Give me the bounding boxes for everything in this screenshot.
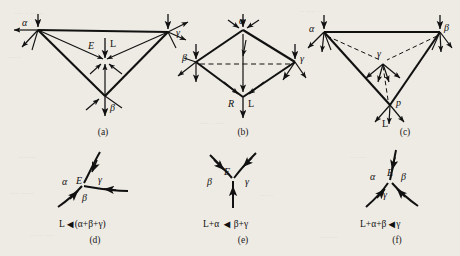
panel-d-label-alpha: α [62,177,67,187]
panel-e-formula-lhs: L+α [203,219,219,229]
panel-b-RL-arrow-in-left [224,82,238,94]
panel-f-formula-arrow: ◄ [386,218,396,230]
panel-a-spoke-from-gamma [107,32,168,59]
panel-a-edge-top [38,30,168,32]
panel-d-arrow-right-branch [104,189,116,190]
panel-c-label-L: L [382,119,388,129]
panel-a-label-L: L [110,39,116,49]
panel-d-arrow-downleft-branch [70,191,78,199]
panel-d-branch-downleft [58,186,82,207]
panel-e-label-E: E [224,167,230,177]
panel-c-label-p: p [396,98,401,108]
panel-c-beta-arrow-down2 [440,32,441,52]
panel-e-caption: (e) [228,235,258,245]
panel-e-formula-arrow: ◄ [222,218,232,230]
panel-d-formula-rhs: (α+β+γ) [75,219,106,229]
panel-f-formula-rhs: γ [396,219,400,229]
panel-d-label-beta: β [82,193,87,203]
panel-d-formula: L◄(α+β+γ) [59,218,106,230]
panel-e-arrow-upleft-branch [214,160,224,170]
panel-b-edge-gamma-RL [243,62,295,97]
panel-b-label-alpha: α [239,16,244,26]
panel-d-caption: (d) [80,235,110,245]
panel-d-label-E: E [76,176,82,186]
panel-b-caption: (b) [228,127,258,137]
panel-d-diagram [58,152,128,207]
panel-b-label-L: L [248,99,254,109]
panel-f-formula-lhs: L+α+β [360,219,386,229]
panel-c-edge-right [390,32,440,105]
panel-c-label-beta: β [444,23,449,33]
panel-b-edge-alpha-gamma [243,30,295,62]
panel-c-beta-arrow-downright [440,32,452,48]
panel-c-alpha-arrow-downleft [308,32,324,48]
panel-e-label-gamma: γ [245,177,249,187]
panel-d-formula-lhs: L [59,219,65,229]
panel-f-label-alpha: α [370,172,375,182]
panel-a-label-alpha: α [22,18,27,28]
panel-f-branch-downright [392,183,418,206]
panel-a-label-E: E [88,41,94,51]
panel-b-label-beta: β [182,53,187,63]
panel-f-arrow-downright-branch [397,189,405,197]
panel-c-dashed-alpha-gamma [327,36,380,60]
panel-a-diagram [14,14,188,116]
panel-f-label-gamma: γ [383,190,387,200]
panel-a-caption: (a) [88,127,118,137]
panel-f-label-beta: β [401,172,406,182]
panel-b-gamma-arrow-downleft [283,62,295,80]
panel-b-diagram [178,14,306,118]
panel-b-edge-alpha-beta [196,30,243,62]
panel-a-label-gamma: γ [176,28,180,38]
panel-d-label-gamma: γ [98,175,102,185]
panel-b-RL-arrow-in-right [249,82,264,94]
panel-c-caption: (c) [390,127,420,137]
panel-e-formula-rhs: β+γ [234,219,248,229]
panel-b-label-gamma: γ [300,54,304,64]
panel-f-label-E: E [387,168,393,178]
panel-f-formula: L+α+β◄γ [360,218,400,230]
panel-a-label-beta: β [110,103,115,113]
panel-c-label-alpha: α [309,24,314,34]
panel-e-arrow-upright-branch [243,158,252,167]
panel-b-beta-arrow-downleft [178,62,196,76]
panel-d-formula-arrow: ◄ [65,218,75,230]
panel-e-label-beta: β [207,177,212,187]
panel-c-p-arrow-down [389,105,390,124]
panel-f-caption: (f) [382,235,412,245]
panel-b-alpha-arrow-in-left [228,20,239,28]
panel-a-edge-left [38,30,105,96]
panel-a-beta-arrow-in-left [86,99,99,110]
panel-c-label-gamma: γ [377,49,381,59]
panel-c-alpha-arrow-down2 [322,32,324,52]
panel-a-E-arrow-right [109,64,122,74]
panel-c-diagram [308,15,452,124]
panel-b-label-R: R [228,99,234,109]
panel-b-alpha-arrow-in-right [247,20,259,28]
panel-e-diagram [210,153,256,208]
panel-e-formula: L+α ◄ β+γ [203,218,248,230]
panel-b-gamma-arrow-downright [295,62,306,78]
panel-a-E-arrow-left [90,64,101,74]
panel-c-edge-left [324,32,390,105]
